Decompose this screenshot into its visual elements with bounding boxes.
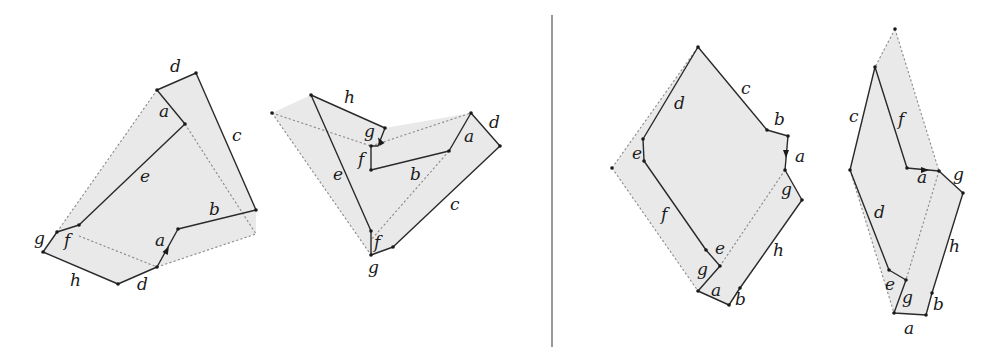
edge-label: d (874, 202, 885, 222)
polygon-diagram: dacebgfahdhgfadebcfgcdbaegfhegabcfagdheg… (0, 0, 984, 357)
edge-label: b (410, 164, 421, 184)
vertex-dot (704, 248, 708, 252)
edge-label: g (368, 257, 379, 277)
edge-label: h (70, 270, 81, 290)
vertex-dot (765, 128, 769, 132)
vertex-dot (727, 303, 731, 307)
figure-4: cfagdhegba (848, 27, 965, 338)
vertex-dot (610, 166, 614, 170)
edge-label: e (333, 164, 343, 184)
vertex-dot (270, 111, 274, 115)
figure-3: cdbaegfhegab (610, 45, 805, 309)
edge-label: c (849, 106, 859, 126)
vertex-dot (369, 168, 373, 172)
edge-label: a (904, 318, 914, 338)
vertex-dot (176, 227, 180, 231)
edge-label: a (917, 167, 927, 187)
vertex-dot (892, 311, 896, 315)
edge-label: e (140, 166, 150, 186)
vertex-dot (55, 230, 59, 234)
vertex-dot (41, 250, 45, 254)
edge-label: b (735, 289, 746, 309)
vertex-dot (696, 289, 700, 293)
edge-label: h (773, 240, 784, 260)
edge-label: g (34, 228, 45, 248)
edge-label: h (344, 87, 355, 107)
vertex-dot (893, 27, 897, 31)
figure-2: hgfadebcfg (270, 87, 502, 277)
edge-label: h (949, 236, 960, 256)
vertex-dot (469, 111, 473, 115)
edge-label: d (137, 274, 148, 294)
edge-label: e (632, 143, 642, 163)
vertex-dot (961, 191, 965, 195)
edge-label: c (450, 194, 460, 214)
edge-label: a (795, 146, 805, 166)
vertex-dot (391, 245, 395, 249)
vertex-dot (873, 65, 877, 69)
vertex-dot (369, 144, 373, 148)
edge-label: c (741, 78, 751, 98)
edge-label: e (885, 274, 895, 294)
vertex-dot (155, 265, 159, 269)
shaded-region (272, 95, 500, 255)
vertex-dot (937, 169, 941, 173)
shaded-region (850, 29, 963, 315)
vertex-dot (696, 45, 700, 49)
edge-label: g (697, 259, 708, 279)
edge-label: d (489, 112, 500, 132)
vertex-dot (924, 313, 928, 317)
edge-label: b (209, 199, 220, 219)
edge-label: b (933, 294, 944, 314)
figure-1: dacebgfahd (34, 56, 258, 294)
edge-label: g (902, 287, 913, 307)
vertex-dot (641, 137, 645, 141)
figures-group: dacebgfahdhgfadebcfgcdbaegfhegabcfagdheg… (34, 27, 965, 338)
vertex-dot (254, 208, 258, 212)
vertex-dot (498, 144, 502, 148)
vertex-dot (887, 268, 891, 272)
vertex-dot (904, 278, 908, 282)
edge-label: d (674, 93, 685, 113)
vertex-dot (905, 166, 909, 170)
vertex-dot (369, 229, 373, 233)
vertex-dot (783, 168, 787, 172)
edge-label: a (159, 101, 169, 121)
vertex-dot (800, 198, 804, 202)
vertex-dot (116, 282, 120, 286)
vertex-dot (183, 122, 187, 126)
vertex-dot (309, 93, 313, 97)
edge-label: g (364, 121, 375, 141)
vertex-dot (77, 223, 81, 227)
edge-label: b (774, 109, 785, 129)
vertex-dot (718, 264, 722, 268)
edge-label: d (170, 56, 181, 76)
vertex-dot (383, 126, 387, 130)
edge-label: e (715, 238, 725, 258)
edge-label: g (781, 179, 792, 199)
edge-label: c (232, 125, 242, 145)
vertex-dot (447, 149, 451, 153)
edge-label: a (155, 230, 165, 250)
edge-label: g (953, 164, 964, 184)
vertex-dot (848, 168, 852, 172)
vertex-dot (786, 134, 790, 138)
edge-label: a (464, 126, 474, 146)
edge-label: a (711, 280, 721, 300)
vertex-dot (194, 71, 198, 75)
vertex-dot (155, 88, 159, 92)
vertex-dot (642, 159, 646, 163)
